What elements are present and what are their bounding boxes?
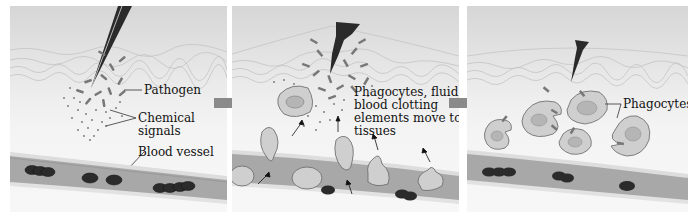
phagocyte: [278, 86, 313, 117]
thorn-icon: [91, 6, 132, 88]
panel-injury-illustration: [10, 6, 227, 212]
label-phagocytes: Phagocytes: [623, 98, 688, 111]
label-blood-vessel: Blood vessel: [138, 146, 214, 159]
scab-icon: [571, 40, 589, 82]
chemical-signals: [63, 87, 123, 141]
label-pathogen: Pathogen: [144, 84, 201, 97]
panel-phagocytosis: Phagocytes: [467, 6, 688, 212]
panel-migration: Phagocytes, fluid, blood clotting elemen…: [232, 6, 459, 212]
label-chemical-signals-2: signals: [138, 125, 181, 138]
label-migration-4: tissues: [354, 125, 396, 138]
panel-injury: Pathogen Chemical signals Blood vessel: [10, 6, 227, 212]
blood-vessel: [467, 152, 688, 202]
